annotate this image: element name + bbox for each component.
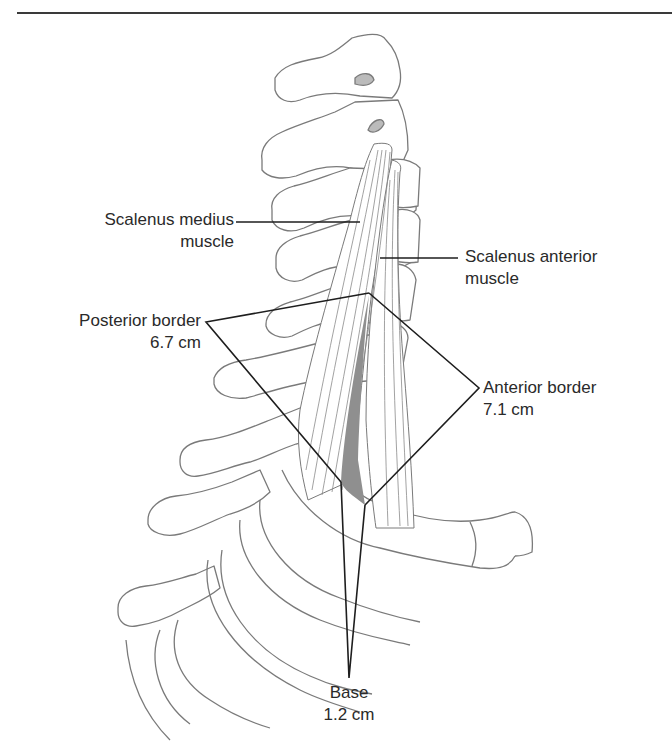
label-base: Base 1.2 cm [299, 682, 399, 726]
label-scalenus-anterior: Scalenus anterior muscle [465, 246, 597, 290]
label-scalenus-medius: Scalenus medius muscle [105, 209, 234, 253]
label-scalenus-medius-line2: muscle [105, 231, 234, 253]
base-name: Base [299, 682, 399, 704]
posterior-border-name: Posterior border [79, 310, 201, 332]
label-posterior-border: Posterior border 6.7 cm [79, 310, 201, 354]
anterior-border-value: 7.1 cm [483, 399, 596, 421]
anterior-border-name: Anterior border [483, 377, 596, 399]
label-anterior-border: Anterior border 7.1 cm [483, 377, 596, 421]
posterior-border-value: 6.7 cm [79, 332, 201, 354]
label-scalenus-medius-line1: Scalenus medius [105, 209, 234, 231]
label-scalenus-anterior-line1: Scalenus anterior [465, 246, 597, 268]
label-scalenus-anterior-line2: muscle [465, 268, 597, 290]
base-value: 1.2 cm [299, 704, 399, 726]
